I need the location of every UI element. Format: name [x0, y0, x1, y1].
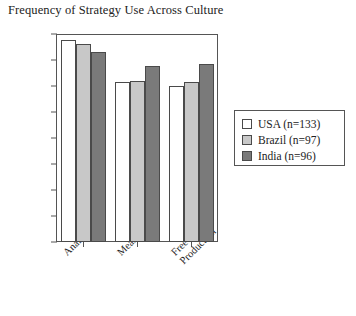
bar: [115, 82, 130, 242]
bar: [61, 40, 76, 242]
bar: [145, 66, 160, 242]
bar: [91, 52, 106, 242]
bar: [199, 64, 214, 242]
legend-item: Brazil (n=97): [242, 132, 344, 148]
y-axis: 4.003.503.002.502.001.501.000.500.00: [0, 0, 56, 316]
chart-legend: USA (n=133)Brazil (n=97)India (n=96): [234, 110, 345, 166]
bar: [130, 81, 145, 242]
legend-label: USA (n=133): [258, 118, 320, 130]
legend-label: India (n=96): [258, 150, 316, 162]
legend-label: Brazil (n=97): [258, 134, 320, 146]
bar: [169, 86, 184, 242]
bars-layer: [56, 34, 218, 242]
bar-chart: Frequency of Strategy Use Across Culture…: [0, 0, 356, 316]
legend-swatch-icon: [242, 119, 252, 129]
legend-item: USA (n=133): [242, 116, 344, 132]
legend-swatch-icon: [242, 151, 252, 161]
legend-swatch-icon: [242, 135, 252, 145]
bar: [76, 44, 91, 242]
bar: [184, 82, 199, 242]
legend-item: India (n=96): [242, 148, 344, 164]
